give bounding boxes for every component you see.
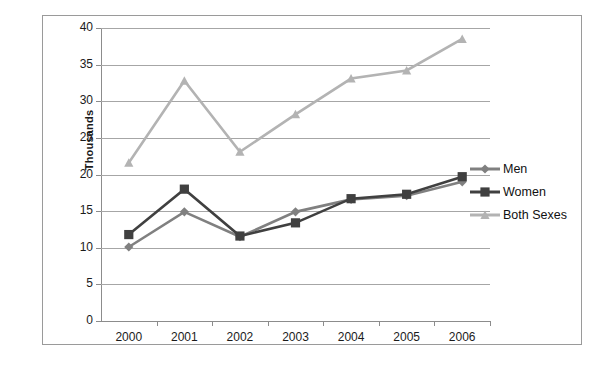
- legend-marker-icon: [470, 185, 500, 199]
- x-axis-tick-label: 2000: [101, 330, 157, 344]
- y-axis-tick-mark: [96, 211, 101, 212]
- series-line: [129, 39, 462, 163]
- legend-label: Women: [503, 185, 546, 199]
- y-axis-tick-mark: [96, 101, 101, 102]
- data-point-marker: [235, 231, 244, 240]
- y-axis-tick-mark: [96, 65, 101, 66]
- series-men: [124, 177, 467, 251]
- y-axis-tick-label: 10: [47, 240, 93, 254]
- x-axis-tick-mark: [157, 321, 158, 326]
- series-both-sexes: [124, 34, 467, 166]
- y-axis-tick-mark: [96, 138, 101, 139]
- y-axis-tick-label: 15: [47, 203, 93, 217]
- data-point-marker: [458, 34, 467, 43]
- x-axis-tick-mark: [212, 321, 213, 326]
- legend-item-both-sexes[interactable]: Both Sexes: [470, 203, 580, 226]
- y-axis-tick-mark: [96, 28, 101, 29]
- y-axis-tick-mark: [96, 321, 101, 322]
- data-point-marker: [180, 76, 189, 85]
- legend-item-women[interactable]: Women: [470, 180, 580, 203]
- data-point-marker: [346, 194, 355, 203]
- data-point-marker: [124, 230, 133, 239]
- x-axis-tick-label: 2006: [434, 330, 490, 344]
- data-point-marker: [402, 190, 411, 199]
- y-axis-tick-label: 25: [47, 130, 93, 144]
- y-axis-tick-mark: [96, 248, 101, 249]
- y-axis-tick-labels: 0510152025303540: [43, 16, 93, 346]
- legend-item-men[interactable]: Men: [470, 157, 580, 180]
- series-layer: [101, 28, 491, 322]
- y-axis-tick-label: 5: [47, 276, 93, 290]
- x-axis-tick-label: 2002: [212, 330, 268, 344]
- y-axis-tick-label: 20: [47, 167, 93, 181]
- series-women: [124, 172, 467, 241]
- legend-label: Both Sexes: [503, 208, 567, 222]
- x-axis-tick-mark: [379, 321, 380, 326]
- chart-legend: MenWomenBoth Sexes: [470, 157, 580, 226]
- legend-marker-icon: [470, 208, 500, 222]
- x-axis-tick-label: 2005: [379, 330, 435, 344]
- y-axis-tick-label: 35: [47, 57, 93, 71]
- x-axis-tick-label: 2004: [323, 330, 379, 344]
- legend-label: Men: [503, 162, 527, 176]
- data-point-marker: [291, 218, 300, 227]
- x-axis-tick-mark: [323, 321, 324, 326]
- x-axis-tick-label: 2003: [268, 330, 324, 344]
- data-point-marker: [480, 164, 489, 173]
- x-axis-tick-mark: [434, 321, 435, 326]
- data-point-marker: [180, 185, 189, 194]
- x-axis-tick-mark: [268, 321, 269, 326]
- x-axis-tick-label: 2001: [156, 330, 212, 344]
- y-axis-tick-mark: [96, 284, 101, 285]
- data-point-marker: [291, 207, 300, 216]
- y-axis-tick-label: 40: [47, 20, 93, 34]
- legend-marker-icon: [470, 162, 500, 176]
- y-axis-tick-label: 0: [47, 313, 93, 327]
- y-axis-tick-mark: [96, 175, 101, 176]
- y-axis-tick-label: 30: [47, 93, 93, 107]
- data-point-marker: [480, 187, 489, 196]
- data-point-marker: [458, 172, 467, 181]
- x-axis-tick-mark: [490, 321, 491, 326]
- chart-container: Thousands 0510152025303540 MenWomenBoth …: [42, 15, 582, 345]
